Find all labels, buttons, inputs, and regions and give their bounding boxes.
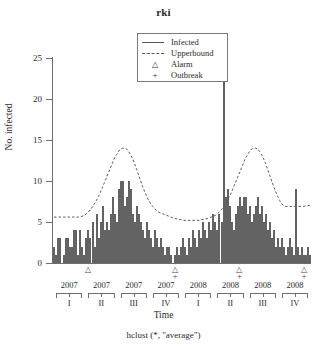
y-tick-label: 5	[18, 218, 42, 227]
y-axis-title: No. infected	[4, 82, 14, 172]
x-quarter-label: I	[182, 299, 214, 308]
y-tick-label: 10	[18, 177, 42, 186]
x-quarter-label: IV	[279, 299, 311, 308]
x-year-label: 2008	[247, 281, 279, 290]
chart-legend: InfectedUpperbound△Alarm+Outbreak	[137, 33, 228, 82]
x-axis-title: Time	[0, 310, 327, 320]
x-quarter-label: I	[53, 299, 85, 308]
y-tick-label: 15	[18, 136, 42, 145]
legend-label: Alarm	[171, 59, 193, 70]
chart-title: rki	[0, 6, 327, 18]
y-tick	[46, 263, 52, 264]
chart-canvas: rki No. infected 0510152025 △△△△+++ 2007…	[0, 0, 327, 349]
x-axis-line	[53, 263, 311, 264]
x-quarter-label: III	[247, 299, 279, 308]
legend-item: Infected	[138, 37, 229, 48]
x-year-label: 2008	[279, 281, 311, 290]
x-year-label: 2007	[53, 281, 85, 290]
x-quarter-label: IV	[150, 299, 182, 308]
legend-label: Infected	[171, 37, 199, 48]
y-tick	[46, 222, 52, 223]
x-quarter-tick	[198, 293, 199, 297]
legend-item: △Alarm	[138, 59, 229, 70]
x-quarter-tick	[69, 293, 70, 297]
legend-triangle-icon: △	[142, 59, 168, 70]
y-tick	[46, 181, 52, 182]
legend-label: Upperbound	[171, 48, 214, 59]
y-tick-label: 0	[18, 259, 42, 268]
legend-plus-icon: +	[142, 70, 168, 81]
x-year-label: 2007	[118, 281, 150, 290]
y-tick	[46, 58, 52, 59]
x-year-label: 2007	[150, 281, 182, 290]
x-year-label: 2008	[214, 281, 246, 290]
y-tick-label: 25	[18, 54, 42, 63]
x-quarter-tick	[166, 293, 167, 297]
legend-solid-line-icon	[142, 42, 164, 43]
x-quarter-tick	[263, 293, 264, 297]
x-quarter-label: III	[118, 299, 150, 308]
x-quarter-tick	[134, 293, 135, 297]
x-quarter-label: II	[85, 299, 117, 308]
upperbound-polyline	[54, 148, 312, 220]
alarm-marker: △	[85, 266, 91, 274]
legend-dashed-line-icon	[142, 53, 164, 54]
x-quarter-tick	[295, 293, 296, 297]
y-tick	[46, 99, 52, 100]
legend-item: +Outbreak	[138, 70, 229, 81]
x-quarter-label: II	[214, 299, 246, 308]
y-tick	[46, 140, 52, 141]
x-quarter-tick	[101, 293, 102, 297]
legend-item: Upperbound	[138, 48, 229, 59]
legend-label: Outbreak	[171, 70, 203, 81]
y-tick-label: 20	[18, 95, 42, 104]
x-quarter-tick	[230, 293, 231, 297]
x-year-label: 2008	[182, 281, 214, 290]
x-year-label: 2007	[85, 281, 117, 290]
chart-subtitle: hclust (*, "average")	[0, 330, 327, 340]
